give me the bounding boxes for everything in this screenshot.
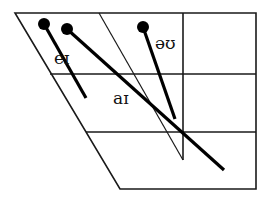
diphthong-label: əʊ bbox=[155, 33, 176, 53]
start-dot-icon bbox=[61, 23, 73, 35]
diphthong-label: aɪ bbox=[113, 88, 129, 108]
vowel-chart: eɪ aɪ əʊ bbox=[0, 0, 271, 201]
diphthong-ou: əʊ bbox=[137, 21, 176, 119]
diphthong-label: eɪ bbox=[54, 48, 70, 68]
start-dot-icon bbox=[137, 21, 149, 33]
start-dot-icon bbox=[38, 18, 50, 30]
